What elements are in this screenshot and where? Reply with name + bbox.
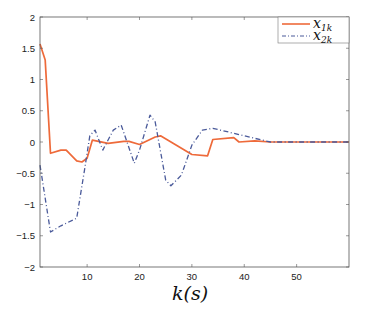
x-tick-label: 30: [187, 271, 198, 282]
y-tick-label: 1.5: [22, 43, 35, 54]
line-chart: −2−1.5−1−0.500.511.52 1020304050 k(s) x1…: [0, 0, 366, 315]
x-tick-label: 50: [291, 271, 302, 282]
y-tick-label: 0: [30, 137, 35, 148]
y-tick-label: 1: [30, 74, 35, 85]
y-tick-label: −1.5: [16, 230, 35, 241]
y-tick-label: 0.5: [22, 105, 35, 116]
x-tick-label: 20: [134, 271, 145, 282]
x-tick-label: 40: [239, 271, 250, 282]
x-axis-label: k(s): [172, 282, 208, 304]
legend: x1k x2k: [278, 15, 349, 45]
y-tick-label: −2: [24, 262, 35, 273]
y-tick-label: 2: [30, 12, 35, 23]
y-tick-label: −0.5: [16, 168, 35, 179]
y-tick-label: −1: [24, 199, 35, 210]
x-tick-label: 10: [82, 271, 93, 282]
